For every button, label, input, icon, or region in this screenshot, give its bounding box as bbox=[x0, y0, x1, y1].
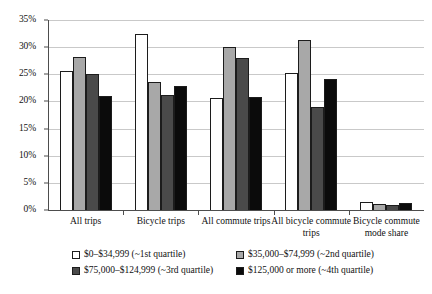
legend-item: $75,000–$124,999 (~3rd quartile) bbox=[72, 265, 213, 276]
bar-group bbox=[123, 20, 198, 210]
legend-swatch-icon bbox=[72, 251, 80, 259]
legend-column-right: $35,000–$74,999 (~2nd quartile)$125,000 … bbox=[236, 249, 374, 281]
bar-group bbox=[349, 20, 424, 210]
plot-region: 35%30%25%20%15%10%5%0% bbox=[0, 0, 432, 215]
bar bbox=[174, 86, 187, 210]
bar-group bbox=[48, 20, 123, 210]
x-axis-line bbox=[48, 210, 424, 211]
legend-item: $0–$34,999 (~1st quartile) bbox=[72, 249, 185, 260]
legend-swatch-icon bbox=[236, 267, 244, 275]
bar-group bbox=[198, 20, 273, 210]
bars-container bbox=[48, 20, 424, 210]
bar bbox=[73, 57, 86, 210]
legend: $0–$34,999 (~1st quartile)$75,000–$124,9… bbox=[0, 249, 432, 289]
legend-swatch-icon bbox=[72, 267, 80, 275]
bar bbox=[223, 47, 236, 210]
bar bbox=[135, 34, 148, 210]
bar bbox=[373, 204, 386, 210]
x-axis-category-labels: All tripsBicycle tripsAll commute tripsA… bbox=[48, 213, 424, 247]
bar bbox=[99, 96, 112, 210]
bar bbox=[249, 97, 262, 210]
x-axis-category-label: Bicycle commute mode share bbox=[343, 216, 430, 239]
bar bbox=[285, 73, 298, 210]
y-axis-tick-label: 20% bbox=[19, 97, 36, 107]
x-axis-category-label: All trips bbox=[42, 216, 129, 228]
y-axis: 35%30%25%20%15%10%5%0% bbox=[0, 0, 40, 215]
legend-column-left: $0–$34,999 (~1st quartile)$75,000–$124,9… bbox=[72, 249, 213, 281]
bar-group bbox=[274, 20, 349, 210]
bar bbox=[360, 202, 373, 210]
bar bbox=[236, 58, 249, 210]
bar bbox=[324, 79, 337, 210]
legend-label: $35,000–$74,999 (~2nd quartile) bbox=[248, 249, 374, 260]
bar bbox=[311, 107, 324, 210]
bar bbox=[298, 40, 311, 210]
income-quartile-bar-chart: 35%30%25%20%15%10%5%0% All tripsBicycle … bbox=[0, 0, 432, 294]
bar bbox=[210, 98, 223, 210]
legend-label: $0–$34,999 (~1st quartile) bbox=[84, 249, 185, 260]
y-axis-tick-label: 15% bbox=[19, 124, 36, 134]
legend-swatch-icon bbox=[236, 251, 244, 259]
legend-item: $35,000–$74,999 (~2nd quartile) bbox=[236, 249, 374, 260]
legend-item: $125,000 or more (~4th quartile) bbox=[236, 265, 373, 276]
y-axis-tick-label: 5% bbox=[24, 178, 36, 188]
y-axis-tick-label: 0% bbox=[24, 205, 36, 215]
legend-label: $75,000–$124,999 (~3rd quartile) bbox=[84, 265, 213, 276]
bar bbox=[86, 74, 99, 210]
x-axis-category-label: All commute trips bbox=[192, 216, 279, 228]
x-axis-category-label: All bicycle commute trips bbox=[268, 216, 355, 239]
bar bbox=[399, 203, 412, 210]
y-axis-tick-label: 35% bbox=[19, 15, 36, 25]
y-axis-tick-label: 30% bbox=[19, 42, 36, 52]
bar bbox=[148, 82, 161, 210]
y-axis-tick-label: 10% bbox=[19, 151, 36, 161]
x-axis-category-label: Bicycle trips bbox=[117, 216, 204, 228]
bar bbox=[386, 205, 399, 210]
bar bbox=[161, 95, 174, 210]
bar bbox=[60, 71, 73, 211]
y-axis-tick-label: 25% bbox=[19, 70, 36, 80]
legend-label: $125,000 or more (~4th quartile) bbox=[248, 265, 373, 276]
